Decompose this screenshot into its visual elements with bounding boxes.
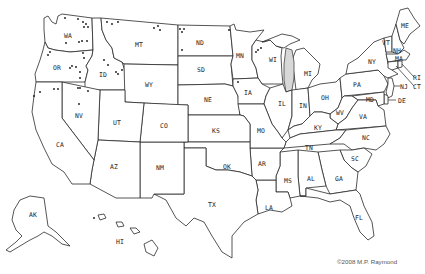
- state-label-wv: WV: [336, 109, 344, 117]
- state-hi-oahu[interactable]: [116, 222, 124, 227]
- state-label-nj: NJ: [400, 83, 408, 91]
- state-label-mo: MO: [257, 127, 265, 135]
- state-label-de: DE: [398, 97, 406, 105]
- state-label-wy: WY: [145, 81, 153, 89]
- state-label-ks: KS: [212, 127, 220, 135]
- state-label-nv: NV: [75, 112, 83, 120]
- state-label-wa: WA: [64, 32, 72, 40]
- state-label-ut: UT: [113, 119, 121, 127]
- state-label-il: IL: [278, 100, 286, 108]
- state-label-va: VA: [359, 113, 367, 121]
- state-label-ca: CA: [56, 141, 64, 149]
- state-hi-maui[interactable]: [130, 228, 140, 234]
- copyright-credit: ©2008 M.P. Raymond: [337, 258, 397, 265]
- state-label-ky: KY: [314, 124, 322, 132]
- state-label-ia: IA: [244, 89, 252, 97]
- state-label-nc: NC: [362, 134, 370, 142]
- state-ak[interactable]: [6, 196, 70, 252]
- state-label-fl: FL: [355, 214, 363, 222]
- state-label-ak: AK: [29, 211, 37, 219]
- map-canvas: WAORIDMTWYNDSDNEMNWIMIIAILINOHPANYVTNHME…: [0, 0, 425, 274]
- lake-michigan: [284, 48, 294, 92]
- state-label-ma: MA: [395, 55, 403, 63]
- state-label-ga: GA: [335, 175, 343, 183]
- state-label-tn: TN: [305, 144, 313, 152]
- state-label-me: ME: [401, 22, 409, 30]
- state-hi-kauai[interactable]: [98, 214, 106, 220]
- state-sd[interactable]: [178, 56, 233, 86]
- state-nj[interactable]: [386, 78, 394, 98]
- state-de[interactable]: [384, 94, 388, 104]
- state-label-al: AL: [307, 175, 315, 183]
- state-label-oh: OH: [321, 94, 329, 102]
- state-label-ms: MS: [284, 177, 292, 185]
- state-label-hi: HI: [116, 238, 124, 246]
- state-label-sc: SC: [351, 155, 359, 163]
- state-label-pa: PA: [353, 81, 361, 89]
- state-label-ct: CT: [413, 83, 421, 91]
- state-label-ny: NY: [368, 58, 376, 66]
- state-label-sd: SD: [197, 66, 205, 74]
- state-label-or: OR: [53, 64, 61, 72]
- state-label-id: ID: [99, 71, 107, 79]
- state-label-mn: MN: [236, 52, 244, 60]
- state-label-tx: TX: [208, 201, 216, 209]
- state-label-md: MD: [366, 96, 374, 104]
- state-label-nh: NH: [393, 47, 401, 55]
- state-label-in: IN: [299, 102, 307, 110]
- state-hi-big[interactable]: [144, 240, 158, 256]
- state-label-mt: MT: [135, 41, 143, 49]
- state-label-la: LA: [265, 204, 273, 212]
- state-label-nm: NM: [156, 164, 164, 172]
- state-label-mi: MI: [304, 70, 312, 78]
- state-label-wi: WI: [269, 56, 277, 64]
- state-label-vt: VT: [382, 39, 390, 47]
- state-label-nd: ND: [196, 39, 204, 47]
- state-label-ok: OK: [223, 163, 231, 171]
- us-map: WAORIDMTWYNDSDNEMNWIMIIAILINOHPANYVTNHME…: [0, 0, 425, 274]
- state-label-ne: NE: [204, 96, 212, 104]
- state-nd[interactable]: [178, 25, 233, 56]
- state-label-co: CO: [160, 122, 168, 130]
- state-label-ar: AR: [258, 160, 266, 168]
- state-label-ri: RI: [413, 74, 421, 82]
- state-label-az: AZ: [110, 163, 118, 171]
